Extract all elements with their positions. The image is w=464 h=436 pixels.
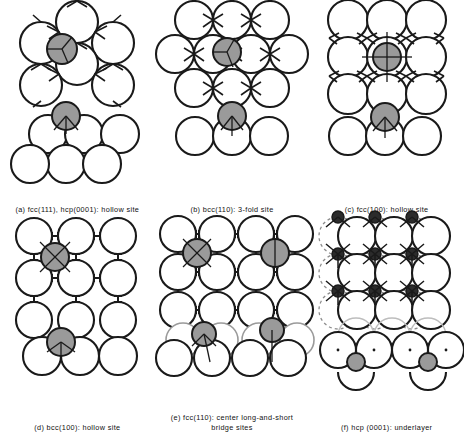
panel-a-views xyxy=(0,4,155,203)
panel-c-top-view xyxy=(326,4,448,104)
fcc110-side-view-drawing xyxy=(162,322,302,384)
fcc100-side-view-drawing xyxy=(326,104,448,162)
panel-f-side-view xyxy=(326,322,448,384)
panel-a-top-view xyxy=(18,4,136,104)
panel-f-views xyxy=(309,222,464,423)
panel-b-side-view xyxy=(169,104,295,166)
panel-f-top-view xyxy=(326,222,448,322)
panel-e-top-view xyxy=(162,222,302,322)
panel-d: (d) bcc(100): hollow site xyxy=(0,218,155,436)
fcc100-top-view-drawing xyxy=(326,6,448,102)
panel-f-caption: (f) hcp (0001): underlayer xyxy=(309,423,464,436)
panel-d-top-view xyxy=(14,222,140,322)
panel-d-views xyxy=(0,222,155,423)
panel-a-caption: (a) fcc(111), hcp(0001): hollow site xyxy=(0,205,155,218)
panel-d-caption: (d) bcc(100): hollow site xyxy=(0,423,155,436)
panel-a: (a) fcc(111), hcp(0001): hollow site xyxy=(0,0,155,218)
panel-f: (f) hcp (0001): underlayer xyxy=(309,218,464,436)
fcc110-top-view-drawing xyxy=(162,224,302,320)
hcp0001-underlayer-side-view-drawing xyxy=(326,322,448,380)
bcc100-top-view-drawing xyxy=(14,224,140,320)
panel-e-side-view xyxy=(162,322,302,384)
panel-c-views xyxy=(309,4,464,205)
hcp0001-underlayer-top-view-drawing xyxy=(326,224,448,320)
panel-e-views xyxy=(155,222,310,413)
panel-e: (e) fcc(110): center long-and-short brid… xyxy=(155,218,310,436)
fcc111-side-view-drawing xyxy=(18,104,136,162)
panel-b: (b) bcc(110): 3-fold site xyxy=(155,0,310,218)
bcc110-side-view-drawing xyxy=(169,104,295,162)
fcc111-top-view-drawing xyxy=(18,6,136,102)
panel-c-side-view xyxy=(326,104,448,166)
panel-b-views xyxy=(155,4,310,205)
bcc110-top-view-drawing xyxy=(169,6,295,102)
panel-d-side-view xyxy=(14,322,140,384)
panel-c: (c) fcc(100): hollow site xyxy=(309,0,464,218)
adsorption-site-figure: (a) fcc(111), hcp(0001): hollow site xyxy=(0,0,464,436)
panel-a-side-view xyxy=(18,104,136,166)
bcc100-side-view-drawing xyxy=(14,322,140,380)
panel-e-caption: (e) fcc(110): center long-and-short brid… xyxy=(155,413,310,436)
panel-b-top-view xyxy=(169,4,295,104)
